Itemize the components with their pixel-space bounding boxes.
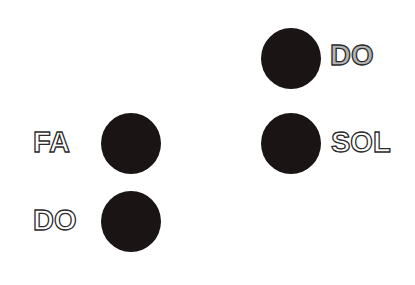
note-label: DO bbox=[330, 41, 374, 70]
note-label: DO bbox=[33, 206, 77, 235]
note-label: FA bbox=[33, 128, 70, 157]
note-dot bbox=[101, 113, 161, 174]
note-dot bbox=[101, 191, 161, 252]
note-dot bbox=[261, 113, 321, 174]
note-dot bbox=[261, 28, 321, 89]
note-label: SOL bbox=[331, 128, 391, 157]
